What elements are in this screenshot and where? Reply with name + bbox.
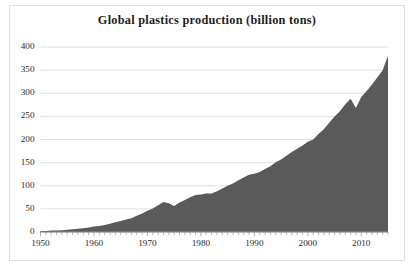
y-tick-label-350: 350	[5, 65, 35, 74]
plot-area	[0, 0, 414, 269]
y-tick-label-100: 100	[5, 181, 35, 190]
x-axis-minor-ticks	[41, 232, 389, 236]
plastics-production-area	[41, 56, 389, 232]
y-tick-label-50: 50	[5, 204, 35, 213]
y-tick-label-400: 400	[5, 42, 35, 51]
y-tick-label-300: 300	[5, 88, 35, 97]
x-tick-label-1950: 1950	[21, 239, 61, 248]
x-tick-label-1970: 1970	[127, 239, 167, 248]
x-tick-label-1990: 1990	[234, 239, 274, 248]
y-tick-label-150: 150	[5, 158, 35, 167]
x-tick-label-1980: 1980	[181, 239, 221, 248]
y-tick-label-250: 250	[5, 111, 35, 120]
y-tick-label-200: 200	[5, 135, 35, 144]
x-tick-label-2010: 2010	[341, 239, 381, 248]
x-tick-label-2000: 2000	[288, 239, 328, 248]
y-tick-label-0: 0	[5, 227, 35, 236]
x-tick-label-1960: 1960	[74, 239, 114, 248]
chart-figure: Global plastics production (billion tons…	[0, 0, 414, 269]
